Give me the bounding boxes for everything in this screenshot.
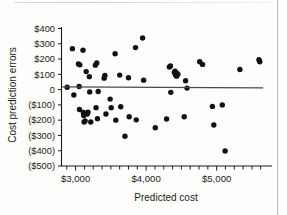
data-point <box>107 96 112 101</box>
data-point <box>220 102 225 107</box>
y-tick-label: ($400) <box>28 146 55 156</box>
y-axis: $400$300$200$1000($100)($200)($300)($400… <box>28 24 61 172</box>
data-point <box>80 47 85 52</box>
data-point <box>126 114 131 119</box>
data-point <box>102 73 107 78</box>
y-axis-ticks: $400$300$200$1000($100)($200)($300)($400… <box>28 24 61 172</box>
zero-trend-line <box>62 87 264 88</box>
data-point <box>77 62 82 67</box>
data-point <box>103 111 108 116</box>
data-point <box>182 114 187 119</box>
trend-line-layer <box>62 87 264 88</box>
data-point <box>93 105 98 110</box>
data-point <box>257 59 262 64</box>
y-tick-label: 0 <box>50 85 55 95</box>
data-point <box>82 118 87 123</box>
cost-prediction-error-scatter-chart: $400$300$200$1000($100)($200)($300)($400… <box>0 0 287 215</box>
data-point <box>87 74 92 79</box>
data-point <box>210 104 215 109</box>
y-tick-label: ($500) <box>28 161 55 171</box>
x-tick-label: $3,000 <box>61 173 90 184</box>
y-tick-label: ($100) <box>28 100 55 110</box>
x-tick-label: $4,000 <box>131 173 160 184</box>
data-point <box>83 69 88 74</box>
data-point <box>126 75 131 80</box>
x-axis-ticks: $3,000$4,000$5,000 <box>61 166 261 184</box>
data-point <box>117 72 122 77</box>
data-point <box>141 77 146 82</box>
data-point <box>87 89 92 94</box>
data-point <box>94 60 99 65</box>
data-point <box>237 67 242 72</box>
y-tick-label: ($300) <box>28 131 55 141</box>
data-point <box>168 90 173 95</box>
plot-points-layer <box>64 35 262 153</box>
y-tick-label: $300 <box>34 39 55 49</box>
x-axis-title: Predicted cost <box>134 192 198 203</box>
y-tick-label: $100 <box>34 70 55 80</box>
data-point <box>164 116 169 121</box>
data-point <box>122 134 127 139</box>
data-point <box>112 51 117 56</box>
data-point <box>95 89 100 94</box>
data-point <box>168 63 173 68</box>
y-tick-label: $200 <box>34 54 55 64</box>
data-point <box>211 122 216 127</box>
data-point <box>85 110 90 115</box>
data-point <box>133 45 138 50</box>
y-tick-label: $400 <box>34 24 55 34</box>
y-tick-label: ($200) <box>28 115 55 125</box>
x-tick-label: $5,000 <box>202 173 231 184</box>
data-point <box>183 78 188 83</box>
data-point <box>118 104 123 109</box>
data-point <box>71 92 76 97</box>
data-point <box>140 35 145 40</box>
y-axis-title: Cost prediction errors <box>7 47 18 143</box>
data-point <box>88 119 93 124</box>
data-point <box>222 148 227 153</box>
data-point <box>70 46 75 51</box>
data-point <box>200 62 205 67</box>
data-point <box>95 116 100 121</box>
data-point <box>175 72 180 77</box>
scatter-plot-figure: $400$300$200$1000($100)($200)($300)($400… <box>0 0 287 215</box>
data-point <box>113 117 118 122</box>
x-axis: $3,000$4,000$5,000 <box>61 166 272 184</box>
data-point <box>109 105 114 110</box>
data-point <box>153 125 158 130</box>
data-point <box>134 117 139 122</box>
